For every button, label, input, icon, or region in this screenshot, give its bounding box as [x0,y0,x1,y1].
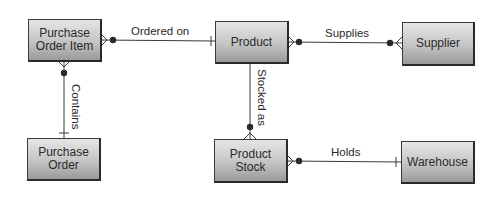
supplies-line [288,42,402,43]
entity-purchase-order-item[interactable]: Purchase Order Item [28,19,102,62]
relationship-label-ordered-on: Ordered on [131,25,189,37]
entity-label: Purchase Order [34,146,94,172]
entity-purchase-order[interactable]: Purchase Order [27,138,101,181]
entity-label: Purchase Order Item [35,27,95,53]
ordered-on-line [101,40,215,41]
relationship-label-contains: Contains [70,84,82,129]
relationship-label-stocked-as: Stocked as [256,69,268,126]
relationship-label-supplies: Supplies [325,27,369,39]
entity-product[interactable]: Product [215,21,289,64]
zero-circle-icon [110,37,116,43]
entity-supplier[interactable]: Supplier [402,22,475,66]
zero-circle-icon [247,124,253,130]
zero-circle-icon [387,40,393,46]
entity-label: Product [231,36,272,49]
entity-label: Product Stock [226,148,276,174]
holds-line [287,161,401,162]
entity-product-stock[interactable]: Product Stock [214,139,288,183]
relationship-label-holds: Holds [331,146,360,158]
zero-circle-icon [296,158,302,164]
entity-warehouse[interactable]: Warehouse [401,141,475,184]
zero-circle-icon [296,39,302,45]
entity-label: Warehouse [407,156,468,169]
entity-label: Supplier [416,37,460,50]
zero-circle-icon [61,70,67,76]
